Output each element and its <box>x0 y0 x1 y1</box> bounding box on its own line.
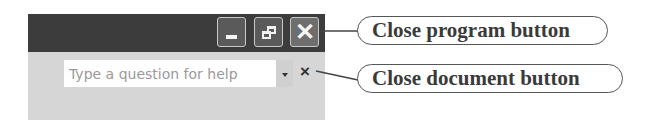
callout-close-program: Close program button <box>357 16 608 45</box>
callout-close-document: Close document button <box>357 64 623 93</box>
